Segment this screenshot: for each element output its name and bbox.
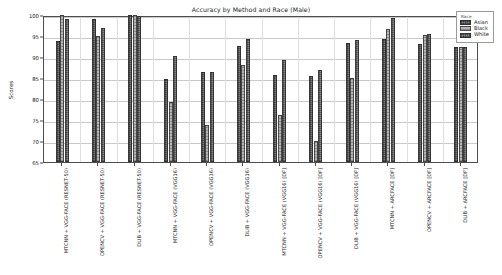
x-tick-label: MTCNN + VGG-FACE (RESNET-50)	[63, 168, 69, 253]
x-tick-label: DLIB + VGG-FACE (VGG16) [DF]	[353, 168, 359, 249]
bar-asian	[382, 39, 386, 162]
legend-label: White	[474, 32, 489, 37]
bar-asian	[273, 75, 277, 162]
legend-swatch-black	[460, 26, 471, 31]
x-tick-mark	[279, 163, 280, 166]
bar-group	[273, 17, 286, 162]
bar-group	[201, 17, 214, 162]
bar-group	[164, 17, 177, 162]
bar-white	[101, 28, 105, 162]
x-axis: MTCNN + VGG-FACE (RESNET-50)OPENCV + VGG…	[43, 163, 478, 275]
bar-asian	[56, 41, 60, 162]
bar-white	[463, 47, 467, 162]
plot-area	[43, 16, 478, 163]
bar-white	[427, 34, 431, 162]
bar-asian	[92, 19, 96, 162]
bar-group	[128, 17, 141, 162]
bar-black	[350, 78, 354, 162]
chart-legend: Race AsianBlackWhite	[456, 11, 494, 43]
x-tick-label: OPENCV + VGG-FACE (VGG16) [DF]	[317, 168, 323, 258]
bar-asian	[237, 46, 241, 162]
bar-black	[96, 36, 100, 162]
bar-black	[133, 15, 137, 162]
bar-black	[459, 47, 463, 162]
bar-group	[92, 17, 105, 162]
y-axis: 65707580859095100	[0, 16, 43, 163]
bar-white	[65, 19, 69, 162]
x-tick-label: OPENCV + VGG-FACE (RESNET-50)	[99, 168, 105, 256]
legend-rows: AsianBlackWhite	[460, 20, 489, 38]
bar-black	[241, 65, 245, 162]
bar-white	[318, 70, 322, 162]
x-tick-label: DLIB + VGG-FACE (VGG16)	[244, 168, 250, 237]
x-tick-mark	[351, 163, 352, 166]
x-tick-mark	[424, 163, 425, 166]
bar-black	[169, 102, 173, 162]
bar-white	[137, 16, 141, 162]
y-tick-label: 85	[32, 76, 39, 82]
x-tick-label: DLIB + VGG-FACE (RESNET-50)	[136, 168, 142, 247]
x-tick-mark	[170, 163, 171, 166]
x-tick-label: OPENCV + VGG-FACE (VGG16)	[208, 168, 214, 246]
y-tick-label: 65	[32, 160, 39, 166]
x-tick-mark	[242, 163, 243, 166]
bars-layer	[44, 17, 477, 162]
bar-group	[237, 17, 250, 162]
x-tick-mark	[460, 163, 461, 166]
bar-group	[309, 17, 322, 162]
x-tick-mark	[134, 163, 135, 166]
bar-black	[314, 141, 318, 162]
bar-asian	[164, 79, 168, 162]
y-tick-label: 70	[32, 139, 39, 145]
bar-group	[56, 17, 69, 162]
x-tick-mark	[206, 163, 207, 166]
bar-group	[382, 17, 395, 162]
x-tick-label: OPENCV + ARCFACE [DF]	[426, 168, 432, 232]
bar-white	[391, 18, 395, 162]
y-tick-label: 80	[32, 97, 39, 103]
bar-asian	[128, 15, 132, 162]
chart-title: Accuracy by Method and Race (Male)	[0, 6, 502, 13]
bar-group	[418, 17, 431, 162]
bar-white	[173, 56, 177, 162]
bar-white	[355, 40, 359, 162]
bar-group	[346, 17, 359, 162]
x-tick-mark	[97, 163, 98, 166]
legend-item-white[interactable]: White	[460, 32, 489, 37]
bar-black	[278, 115, 282, 162]
chart-figure: Accuracy by Method and Race (Male) Score…	[0, 0, 502, 275]
bar-black	[386, 29, 390, 162]
bar-white	[282, 60, 286, 162]
x-tick-label: MTCNN + VGG-FACE (VGG16) [DF]	[281, 168, 287, 256]
bar-asian	[418, 44, 422, 162]
bar-white	[246, 39, 250, 162]
x-tick-mark	[61, 163, 62, 166]
x-tick-label: DLIB + ARCFACE [DF]	[462, 168, 468, 223]
bar-asian	[346, 43, 350, 162]
legend-swatch-white	[460, 33, 471, 38]
y-tick-label: 90	[32, 55, 39, 61]
bar-white	[210, 72, 214, 162]
legend-swatch-asian	[460, 20, 471, 25]
bar-black	[423, 35, 427, 162]
bar-black	[205, 125, 209, 162]
x-tick-label: MTCNN + ARCFACE [DF]	[389, 168, 395, 229]
x-tick-label: MTCNN + VGG-FACE (VGG16)	[172, 168, 178, 243]
bar-asian	[201, 72, 205, 162]
y-tick-label: 95	[32, 34, 39, 40]
y-tick-label: 100	[29, 13, 39, 19]
bar-asian	[454, 47, 458, 162]
y-tick-label: 75	[32, 118, 39, 124]
x-tick-mark	[387, 163, 388, 166]
bar-asian	[309, 76, 313, 162]
x-tick-mark	[315, 163, 316, 166]
bar-black	[60, 15, 64, 162]
